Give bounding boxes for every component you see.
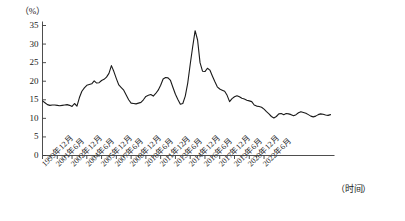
- x-axis-tick-marks: [43, 156, 265, 160]
- data-series-line: [43, 31, 331, 118]
- line-chart-figure: （%） （时间） 35302520151050 1999年12月2001年6月2…: [0, 0, 405, 221]
- plot-area: [0, 0, 405, 221]
- y-axis-tick-marks: [43, 26, 47, 156]
- axis-lines: [43, 22, 335, 156]
